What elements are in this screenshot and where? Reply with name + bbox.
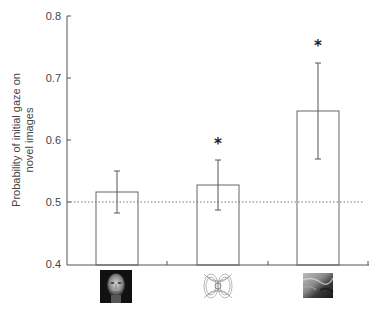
y-tick-label: 0.5: [46, 196, 61, 208]
y-tick-label: 0.6: [46, 134, 61, 146]
y-tick-label: 0.8: [46, 10, 61, 22]
y-axis-label: Probability of initial gaze on: [10, 73, 22, 207]
line-pattern-image-icon: [204, 274, 232, 298]
y-axis-label-line2: novel images: [23, 107, 35, 172]
significance-star-pattern: *: [214, 135, 222, 153]
y-ticks: [67, 16, 71, 202]
face-image-icon: [100, 270, 132, 303]
texture-image-icon: [303, 273, 333, 298]
significance-star-texture: *: [314, 37, 322, 55]
y-tick-label: 0.4: [46, 258, 61, 270]
chart: Probability of initial gaze on novel ima…: [0, 0, 379, 313]
y-tick-label: 0.7: [46, 72, 61, 84]
